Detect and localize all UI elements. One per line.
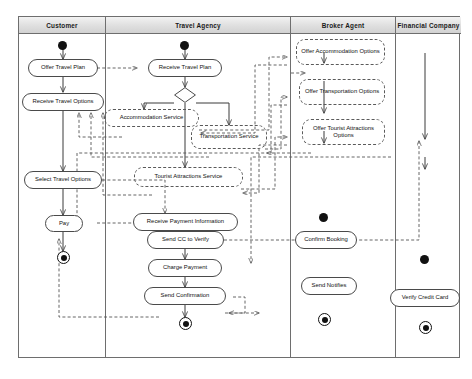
lane-header-broker-agent-label: Broker Agent — [322, 22, 365, 29]
initial-node-customer — [58, 41, 67, 50]
activity-select-travel-options[interactable]: Select Travel Options — [24, 171, 102, 189]
lane-header-financial-company-label: Financial Company — [398, 22, 460, 29]
lane-body-financial-company — [396, 34, 461, 357]
lane-body-customer — [19, 34, 106, 357]
activity-pay-label: Pay — [56, 220, 72, 227]
activity-offer-tourist-attractions-options[interactable]: Offer Tourist Attractions Options — [302, 119, 385, 145]
activity-confirm-booking-label: Confirm Booking — [301, 236, 351, 243]
activity-send-confirmation[interactable]: Send Confirmation — [144, 287, 226, 305]
activity-verify-credit-card-label: Verify Credit Card — [399, 294, 452, 301]
activity-transportation-service-label: Transportation Service — [196, 133, 261, 140]
activity-receive-payment-information-label: Receive Payment Information — [144, 218, 227, 225]
activity-tourist-attractions-service-label: Tourist Attractions Service — [152, 173, 226, 180]
activity-receive-travel-options-label: Receive Travel Options — [30, 98, 97, 105]
final-node-financial-company — [419, 321, 432, 334]
activity-receive-payment-information[interactable]: Receive Payment Information — [133, 213, 238, 231]
activity-offer-transportation-options[interactable]: Offer Transportation Options — [299, 79, 385, 105]
activity-offer-accommodation-options[interactable]: Offer Accommodation Options — [296, 39, 385, 65]
diagram-frame: Customer Travel Agency Broker Agent Fina… — [18, 16, 460, 358]
activity-send-confirmation-label: Send Confirmation — [158, 292, 213, 299]
lane-header-travel-agency-label: Travel Agency — [175, 22, 221, 29]
activity-charge-payment[interactable]: Charge Payment — [148, 259, 222, 277]
initial-node-broker-agent — [319, 213, 328, 222]
activity-offer-travel-plan-label: Offer Travel Plan — [38, 64, 88, 71]
activity-tourist-attractions-service[interactable]: Tourist Attractions Service — [134, 167, 243, 187]
lane-header-financial-company: Financial Company — [396, 17, 461, 34]
activity-select-travel-options-label: Select Travel Options — [32, 176, 94, 183]
activity-offer-accommodation-options-label: Offer Accommodation Options — [298, 48, 382, 55]
activity-offer-transportation-options-label: Offer Transportation Options — [302, 88, 382, 95]
activity-accommodation-service[interactable]: Accommodation Service — [104, 109, 199, 127]
activity-accommodation-service-label: Accommodation Service — [117, 114, 187, 121]
activity-offer-tourist-attractions-options-label: Offer Tourist Attractions Options — [303, 125, 384, 140]
final-node-broker-agent — [318, 313, 331, 326]
activity-receive-travel-options[interactable]: Receive Travel Options — [22, 93, 104, 111]
lane-header-customer: Customer — [19, 17, 106, 34]
activity-send-cc-to-verify[interactable]: Send CC to Verify — [147, 231, 224, 249]
activity-pay[interactable]: Pay — [45, 215, 83, 232]
decision-node-travel-agency — [174, 87, 196, 103]
final-node-travel-agency — [179, 317, 192, 330]
activity-transportation-service[interactable]: Transportation Service — [191, 125, 267, 149]
activity-diagram-canvas: Customer Travel Agency Broker Agent Fina… — [0, 0, 472, 379]
activity-verify-credit-card[interactable]: Verify Credit Card — [390, 289, 460, 307]
lane-header-travel-agency: Travel Agency — [106, 17, 291, 34]
initial-node-financial-company — [420, 255, 429, 264]
activity-receive-travel-plan[interactable]: Receive Travel Plan — [148, 59, 222, 77]
activity-receive-travel-plan-label: Receive Travel Plan — [156, 64, 214, 71]
activity-charge-payment-label: Charge Payment — [160, 264, 210, 271]
activity-send-notifies[interactable]: Send Notifies — [301, 277, 357, 295]
initial-node-travel-agency — [180, 41, 189, 50]
activity-offer-travel-plan[interactable]: Offer Travel Plan — [28, 59, 98, 77]
lane-header-customer-label: Customer — [46, 22, 77, 29]
activity-send-cc-to-verify-label: Send CC to Verify — [159, 236, 212, 243]
activity-send-notifies-label: Send Notifies — [308, 282, 349, 289]
lane-header-broker-agent: Broker Agent — [291, 17, 396, 34]
activity-confirm-booking[interactable]: Confirm Booking — [295, 231, 357, 249]
lane-body-travel-agency — [106, 34, 291, 357]
final-node-customer — [57, 251, 70, 264]
